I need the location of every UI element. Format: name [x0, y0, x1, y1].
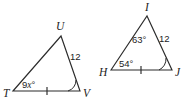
- side-label-UV: 12: [70, 51, 81, 62]
- angle-label-H: 54°: [119, 58, 134, 69]
- figure-canvas: T U V 12 9x° H I J 12 63° 54°: [0, 0, 195, 102]
- angle-label-T-degree: °: [32, 79, 36, 90]
- vertex-label-U: U: [56, 20, 65, 32]
- triangle-HIJ: H I J 12 63° 54°: [98, 1, 181, 78]
- angle-label-I: 63°: [132, 34, 147, 45]
- triangle-TUV: T U V 12 9x°: [3, 20, 92, 99]
- angle-label-T: 9x°: [22, 79, 36, 90]
- angle-arc-J: [159, 58, 166, 70]
- geometry-diagram: T U V 12 9x° H I J 12 63° 54°: [0, 0, 195, 102]
- vertex-label-H: H: [98, 66, 108, 78]
- vertex-label-J: J: [175, 66, 181, 78]
- side-label-IJ: 12: [159, 33, 170, 44]
- angle-arc-V: [68, 80, 76, 91]
- vertex-label-T: T: [3, 87, 11, 99]
- vertex-label-I: I: [144, 1, 150, 13]
- vertex-label-V: V: [83, 87, 92, 99]
